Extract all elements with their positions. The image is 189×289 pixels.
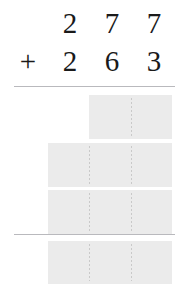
partial-product-row-2-input[interactable] <box>48 143 172 187</box>
answer-cell-ones[interactable] <box>131 143 172 187</box>
answer-cell-tens[interactable] <box>89 95 131 139</box>
addend-bottom-tens-digit: 6 <box>97 42 127 80</box>
total-cell-ones[interactable] <box>131 241 172 284</box>
total-rule-line <box>14 234 175 235</box>
partial-product-row-3-input[interactable] <box>48 190 172 234</box>
answer-cell-ones[interactable] <box>131 190 172 234</box>
addend-bottom-row: + 2 6 3 <box>0 42 189 80</box>
answer-cell-tens[interactable] <box>89 190 130 234</box>
plus-sign-icon: + <box>13 42 43 80</box>
addend-bottom-hundreds-digit: 2 <box>55 42 85 80</box>
answer-cell-ones[interactable] <box>131 95 173 139</box>
addend-top-tens-digit: 7 <box>97 4 127 42</box>
total-row-input[interactable] <box>48 241 172 284</box>
total-cell-hundreds[interactable] <box>48 241 89 284</box>
addend-top-row: 2 7 7 <box>0 4 189 42</box>
addend-top-ones-digit: 7 <box>139 4 169 42</box>
answer-cell-hundreds[interactable] <box>48 190 89 234</box>
addition-worksheet: 2 7 7 + 2 6 3 <box>0 0 189 289</box>
answer-cell-hundreds[interactable] <box>48 143 89 187</box>
total-cell-tens[interactable] <box>89 241 130 284</box>
addend-top-hundreds-digit: 2 <box>55 4 85 42</box>
partial-product-row-1-input[interactable] <box>89 95 172 139</box>
addend-bottom-ones-digit: 3 <box>139 42 169 80</box>
addition-rule-line <box>14 86 175 87</box>
answer-cell-tens[interactable] <box>89 143 130 187</box>
